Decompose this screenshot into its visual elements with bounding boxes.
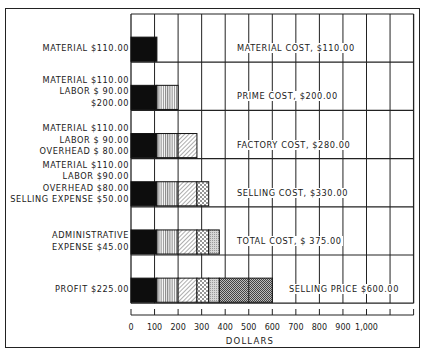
row-label-line: PROFIT $225.00: [55, 284, 129, 296]
row-label-line: OVERHEAD $80.00: [10, 183, 129, 195]
x-tick-label: 500: [241, 323, 256, 332]
row-label: MATERIAL $110.00: [42, 43, 129, 55]
row-label-line: ADMINISTRATIVE: [52, 230, 129, 242]
bar-segment-material: [131, 37, 157, 61]
row-label-line: MATERIAL $110.00: [40, 123, 129, 135]
row-label-line: MATERIAL $110.00: [42, 43, 129, 55]
row-label: MATERIAL $110.00LABOR $90.00OVERHEAD $80…: [10, 160, 129, 206]
bar-segment-material: [131, 85, 157, 109]
row-label-line: $200.00: [42, 98, 129, 110]
bar-segment-material: [131, 134, 157, 158]
x-tick-label: 300: [194, 323, 209, 332]
row-label-line: LABOR $ 90.00: [40, 135, 129, 147]
bar-segment-material: [131, 278, 157, 302]
row-annotation: PRIME COST, $200.00: [236, 91, 339, 101]
row-label: PROFIT $225.00: [55, 284, 129, 296]
x-tick-label: 1,000: [355, 323, 378, 332]
row-label: ADMINISTRATIVEEXPENSE $45.00: [52, 230, 129, 253]
x-tick-label: 900: [335, 323, 350, 332]
row-annotation: MATERIAL COST, $110.00: [236, 43, 356, 53]
row-label-line: SELLING EXPENSE $50.00: [10, 194, 129, 206]
bar-segment-selling-expense: [197, 230, 209, 254]
chart-grid: [131, 14, 414, 303]
bar-segment-profit: [219, 278, 272, 302]
bar-segment-labor: [157, 134, 178, 158]
x-tick-label: 100: [147, 323, 162, 332]
row-annotation: TOTAL COST, $ 375.00: [236, 236, 343, 246]
bar-segment-overhead: [178, 182, 197, 206]
x-axis: [131, 309, 414, 315]
bar-segment-selling-expense: [197, 278, 209, 302]
x-axis-title: DOLLARS: [226, 336, 274, 346]
bar-segment-labor: [157, 182, 178, 206]
bar-segment-material: [131, 182, 157, 206]
bar-segment-labor: [157, 278, 178, 302]
bar-segment-labor: [157, 230, 178, 254]
row-label-line: LABOR $90.00: [10, 171, 129, 183]
row-annotation: SELLING COST, $330.00: [236, 188, 349, 198]
row-annotation: FACTORY COST, $280.00: [236, 140, 351, 150]
bar-segment-material: [131, 230, 157, 254]
x-tick-label: 700: [288, 323, 303, 332]
bar-segment-labor: [157, 85, 178, 109]
row-label: MATERIAL $110.00LABOR $ 90.00$200.00: [42, 75, 129, 110]
bar-segment-overhead: [178, 278, 197, 302]
row-label-line: OVERHEAD $ 80.00: [40, 146, 129, 158]
bar-segment-administrative-expense: [209, 230, 220, 254]
bar-segment-selling-expense: [197, 182, 209, 206]
x-tick-label: 800: [312, 323, 327, 332]
x-tick-label: 200: [170, 323, 185, 332]
bar-segment-administrative-expense: [209, 278, 220, 302]
row-label: MATERIAL $110.00LABOR $ 90.00OVERHEAD $ …: [40, 123, 129, 158]
bar-segment-overhead: [178, 230, 197, 254]
row-annotation: SELLING PRICE $600.00: [288, 284, 400, 294]
row-label-line: LABOR $ 90.00: [42, 86, 129, 98]
x-tick-label: 0: [128, 323, 133, 332]
row-label-line: EXPENSE $45.00: [52, 242, 129, 254]
row-label-line: MATERIAL $110.00: [42, 75, 129, 87]
x-tick-label: 400: [218, 323, 233, 332]
row-label-line: MATERIAL $110.00: [10, 160, 129, 172]
bar-segment-overhead: [178, 134, 197, 158]
x-tick-label: 600: [265, 323, 280, 332]
